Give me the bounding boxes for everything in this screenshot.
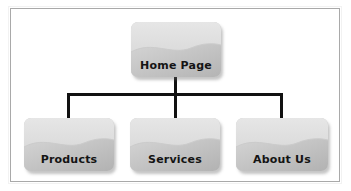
connector-drop-products [67,93,70,119]
node-about-us[interactable]: About Us [236,118,328,171]
connector-drop-services [174,93,177,119]
sitemap-diagram-canvas: Home Page Products [0,0,351,191]
node-label-products: Products [24,153,114,166]
node-label-home-page: Home Page [131,59,221,72]
node-label-services: Services [130,153,220,166]
node-home-page[interactable]: Home Page [131,22,221,77]
node-services[interactable]: Services [130,118,220,171]
connector-drop-about [280,93,283,119]
node-label-about-us: About Us [236,153,328,166]
node-products[interactable]: Products [24,118,114,171]
